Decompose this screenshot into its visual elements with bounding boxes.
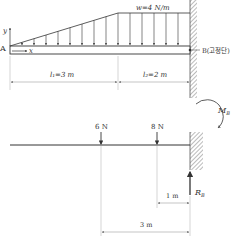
- moment-label: MB: [217, 106, 230, 116]
- span1-label: l₁=3 m: [50, 71, 75, 79]
- beam-diagram: y x A w=4 N/m B(고정단) l₁=3 m l₂=2 m 6 N 8…: [0, 0, 239, 251]
- force2-label: 8 N: [151, 123, 164, 131]
- load-label: w=4 N/m: [136, 4, 170, 12]
- reaction-label: RB: [194, 188, 205, 198]
- top-diagram: y x A w=4 N/m B(고정단) l₁=3 m l₂=2 m: [0, 0, 230, 98]
- fixed-end-label: B(고정단): [202, 46, 230, 55]
- fixed-wall-top: [190, 0, 197, 98]
- y-axis-label: y: [2, 27, 8, 35]
- point-a-label: A: [0, 44, 6, 53]
- x-axis-label: x: [29, 47, 33, 55]
- dim-long-label: 3 m: [140, 221, 152, 229]
- force1-label: 6 N: [95, 123, 108, 131]
- span2-label: l₂=2 m: [143, 71, 168, 79]
- distributed-load-arrows: [22, 13, 178, 45]
- fixed-wall-bottom: [190, 132, 203, 170]
- dim-short-label: 1 m: [166, 192, 178, 200]
- load-envelope: [10, 13, 190, 46]
- bottom-diagram: 6 N 8 N MB RB 1 m 3 m: [10, 100, 230, 236]
- beam: [10, 46, 190, 54]
